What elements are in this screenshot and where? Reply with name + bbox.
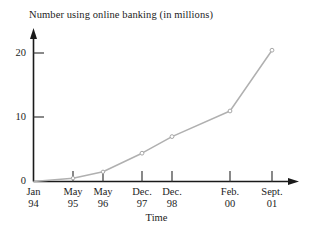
x-tick-month-jan: Jan <box>27 186 41 197</box>
chart-container: Number using online banking (in millions… <box>0 0 313 240</box>
y-axis-tick-label-20: 20 <box>0 47 26 58</box>
x-axis-arrowhead <box>288 178 299 185</box>
x-tick-month-sept: Sept. <box>261 186 282 197</box>
x-tick-month-feb: Feb. <box>221 186 239 197</box>
x-tick-month-dec-98: Dec. <box>162 186 182 197</box>
data-point-may-96 <box>101 170 104 173</box>
x-tick-year-98: 98 <box>149 198 195 210</box>
data-line-series <box>34 50 273 181</box>
y-axis-tick-label-10: 10 <box>0 111 26 122</box>
data-point-may-95 <box>71 177 74 180</box>
data-point-sept-01 <box>270 48 274 52</box>
data-point-feb-00 <box>228 109 232 113</box>
y-axis-tick-label-0: 0 <box>0 175 26 186</box>
data-point-dec-98 <box>170 135 174 139</box>
y-axis-arrowhead <box>30 28 37 39</box>
x-tick-month-may-96: May <box>93 186 112 197</box>
x-tick-year-01: 01 <box>249 198 295 210</box>
x-axis-tick-label-feb-00: Feb. 00 <box>207 186 253 210</box>
data-point-dec-97 <box>140 151 144 155</box>
x-tick-year-00: 00 <box>207 198 253 210</box>
x-axis-tick-label-dec-98: Dec. 98 <box>149 186 195 210</box>
x-axis-tick-label-sept-01: Sept. 01 <box>249 186 295 210</box>
x-axis-title: Time <box>0 212 313 223</box>
